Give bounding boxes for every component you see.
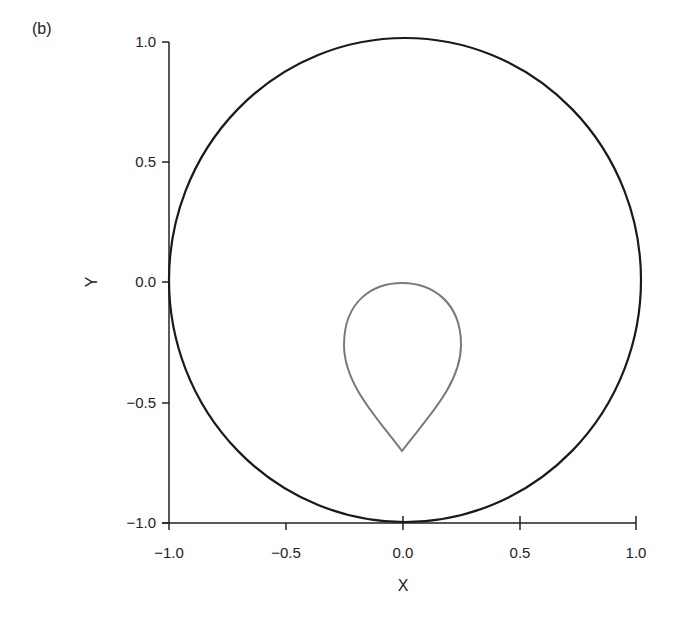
- x-axis: −1.0 −0.5 0.0 0.5 1.0 X: [154, 516, 646, 594]
- y-tick-label: 0.0: [135, 273, 156, 290]
- teardrop-curve: [344, 283, 461, 451]
- unit-circle-curve: [169, 38, 641, 522]
- x-tick-label: 0.5: [510, 544, 531, 561]
- x-axis-label: X: [398, 577, 409, 594]
- y-tick-label: −0.5: [126, 394, 156, 411]
- x-tick-label: −1.0: [154, 544, 184, 561]
- y-tick-label: 0.5: [135, 153, 156, 170]
- x-tick-label: −0.5: [271, 544, 301, 561]
- x-tick-label: 1.0: [626, 544, 647, 561]
- y-tick-label: −1.0: [126, 514, 156, 531]
- y-tick-label: 1.0: [135, 33, 156, 50]
- y-axis-label: Y: [83, 276, 100, 287]
- y-axis: 1.0 0.5 0.0 −0.5 −1.0 Y: [83, 33, 169, 531]
- chart: 1.0 0.5 0.0 −0.5 −1.0 Y −1.0 −0.5 0.0 0.…: [0, 0, 675, 620]
- x-tick-label: 0.0: [393, 544, 414, 561]
